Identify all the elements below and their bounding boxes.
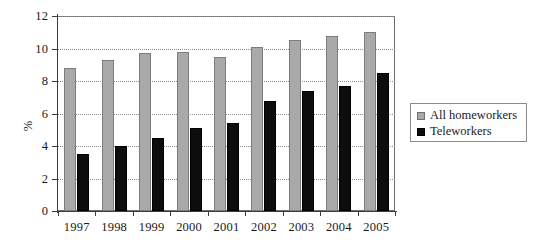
y-axis-tick-label-wrap: 12	[0, 10, 48, 22]
y-axis-tick-label-wrap: 0	[0, 205, 48, 217]
legend-swatch-gray-icon	[417, 112, 425, 120]
y-axis-tick-label-wrap: 2	[0, 173, 48, 185]
x-axis-tick	[95, 211, 96, 216]
x-axis-tick	[208, 211, 209, 216]
x-axis-tick	[58, 211, 59, 216]
bar-all-homeworkers-1997	[64, 68, 76, 211]
y-axis-tick-label: 10	[4, 43, 48, 55]
y-axis-tick-label-wrap: 8	[0, 75, 48, 87]
legend-label-all-homeworkers: All homeworkers	[430, 109, 517, 122]
bar-all-homeworkers-2004	[326, 36, 338, 212]
y-axis-tick-label: 0	[4, 205, 48, 217]
bar-teleworkers-2001	[227, 123, 239, 211]
legend-item-teleworkers: Teleworkers	[417, 124, 520, 139]
y-axis-tick-label: 4	[4, 140, 48, 152]
legend-item-all-homeworkers: All homeworkers	[417, 108, 520, 123]
bar-teleworkers-1998	[115, 146, 127, 211]
y-axis-tick-label: 8	[4, 75, 48, 87]
bar-teleworkers-1997	[77, 154, 89, 211]
x-axis-tick	[320, 211, 321, 216]
bar-all-homeworkers-2000	[177, 52, 189, 211]
legend-label-teleworkers: Teleworkers	[430, 125, 492, 138]
bar-chart: 024681012 % 1997199819992000200120022003…	[0, 0, 547, 251]
x-axis-tick	[133, 211, 134, 216]
bar-teleworkers-2002	[264, 101, 276, 212]
y-axis-tick-label-wrap: 10	[0, 43, 48, 55]
bar-all-homeworkers-1998	[102, 60, 114, 211]
x-axis-tick	[245, 211, 246, 216]
y-axis-tick-label: 2	[4, 173, 48, 185]
bar-teleworkers-2003	[302, 91, 314, 211]
x-axis-tick-label-2005: 2005	[353, 220, 399, 234]
bar-teleworkers-2005	[377, 73, 389, 211]
bar-all-homeworkers-2001	[214, 57, 226, 211]
bar-teleworkers-2004	[339, 86, 351, 211]
bar-all-homeworkers-2002	[251, 47, 263, 211]
legend-swatch-black-icon	[417, 128, 425, 136]
x-axis-tick	[395, 211, 396, 216]
y-axis-tick-label: 12	[4, 10, 48, 22]
bars-layer	[58, 16, 395, 211]
y-axis-tick-label-wrap: 4	[0, 140, 48, 152]
bar-all-homeworkers-2005	[364, 32, 376, 211]
x-axis-line	[55, 211, 397, 212]
y-axis-title: %	[18, 116, 38, 136]
bar-all-homeworkers-2003	[289, 40, 301, 211]
bar-all-homeworkers-1999	[139, 53, 151, 211]
x-axis-tick	[283, 211, 284, 216]
x-axis-tick	[358, 211, 359, 216]
x-axis-tick	[170, 211, 171, 216]
bar-teleworkers-1999	[152, 138, 164, 211]
bar-teleworkers-2000	[190, 128, 202, 211]
chart-legend: All homeworkers Teleworkers	[410, 103, 527, 142]
